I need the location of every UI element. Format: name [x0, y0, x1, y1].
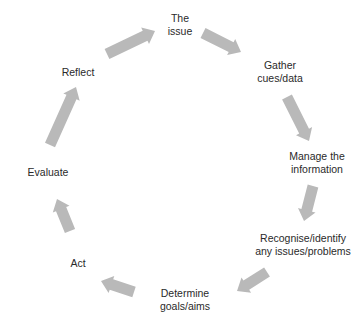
cycle-diagram: The issue Gather cues/data Manage the in…: [0, 0, 363, 330]
arrow-the-issue-to-gather-cues-icon: [201, 28, 242, 55]
step-manage-information: Manage the information: [289, 150, 344, 176]
arrow-manage-information-to-recognise-issues-icon: [298, 185, 318, 221]
step-line: Act: [70, 257, 85, 270]
step-line: Determine: [160, 287, 210, 300]
step-recognise-issues: Recognise/identify any issues/problems: [255, 232, 351, 258]
step-line: any issues/problems: [255, 245, 351, 258]
step-determine-goals: Determine goals/aims: [160, 287, 210, 313]
step-line: goals/aims: [160, 300, 210, 313]
step-reflect: Reflect: [62, 66, 95, 79]
step-line: issue: [168, 25, 193, 38]
step-gather-cues: Gather cues/data: [257, 59, 303, 85]
step-line: Recognise/identify: [255, 232, 351, 245]
step-line: Gather: [257, 59, 303, 72]
step-the-issue: The issue: [168, 12, 193, 38]
arrow-determine-goals-to-act-icon: [101, 276, 136, 297]
arrow-recognise-issues-to-determine-goals-icon: [237, 267, 270, 292]
step-line: cues/data: [257, 72, 303, 85]
arrow-act-to-evaluate-icon: [53, 199, 75, 233]
arrow-evaluate-to-reflect-icon: [45, 87, 80, 147]
step-line: Evaluate: [28, 166, 69, 179]
step-act: Act: [70, 257, 85, 270]
arrow-reflect-to-the-issue-icon: [105, 28, 155, 59]
step-line: The: [168, 12, 193, 25]
arrow-gather-cues-to-manage-information-icon: [282, 95, 312, 142]
step-line: Manage the: [289, 150, 344, 163]
step-evaluate: Evaluate: [28, 166, 69, 179]
step-line: information: [289, 163, 344, 176]
step-line: Reflect: [62, 66, 95, 79]
